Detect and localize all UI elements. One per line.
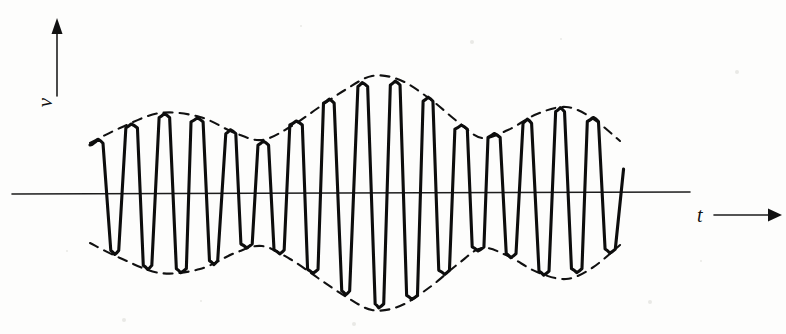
time-axis-label: t (697, 205, 703, 225)
paper-speckle (200, 300, 202, 302)
waveform-figure: v t (0, 0, 786, 334)
paper-speckle (648, 300, 652, 304)
amplitude-axis-label: v (35, 98, 56, 107)
paper-speckle (66, 250, 68, 252)
waveform-svg (0, 0, 786, 334)
arrow-up-icon (52, 18, 63, 34)
paper-speckle (300, 25, 302, 27)
paper-speckle (700, 260, 702, 262)
paper-speckle (735, 70, 739, 74)
paper-speckle (470, 40, 474, 44)
paper-speckle (352, 322, 356, 326)
vertical-axis (52, 18, 63, 96)
paper-speckle (560, 38, 562, 40)
lower-envelope-curve (90, 243, 620, 311)
time-axis-line (12, 192, 690, 194)
horizontal-axis (12, 192, 782, 222)
paper-speckle (122, 318, 126, 322)
arrow-right-icon (768, 209, 782, 222)
